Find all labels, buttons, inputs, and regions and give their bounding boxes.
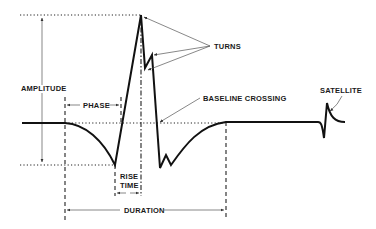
turns-label: TURNS bbox=[214, 42, 241, 51]
turns-pointer-peak bbox=[144, 17, 210, 46]
time-label: TIME bbox=[120, 181, 139, 190]
muap-diagram: TURNS AMPLITUDE PHASE BASELINE CROSSING … bbox=[0, 0, 376, 229]
baseline-crossing-label: BASELINE CROSSING bbox=[203, 94, 286, 103]
turns-pointer-2 bbox=[154, 46, 210, 55]
turns-pointer-3 bbox=[148, 46, 210, 70]
waveform bbox=[22, 15, 345, 168]
baseline-crossing-pointer bbox=[160, 98, 200, 122]
satellite-label: SATELLITE bbox=[320, 86, 362, 95]
amplitude-label: AMPLITUDE bbox=[21, 84, 67, 93]
rise-label: RISE bbox=[120, 172, 138, 181]
satellite-pointer bbox=[330, 96, 342, 111]
duration-label: DURATION bbox=[124, 206, 165, 215]
phase-label: PHASE bbox=[83, 101, 110, 110]
